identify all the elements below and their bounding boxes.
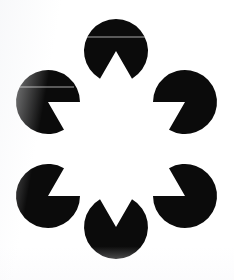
- image-canvas: Top pac-man discUpper right pac-man disc…: [0, 0, 234, 280]
- kanizsa-figure: Top pac-man discUpper right pac-man disc…: [0, 0, 234, 280]
